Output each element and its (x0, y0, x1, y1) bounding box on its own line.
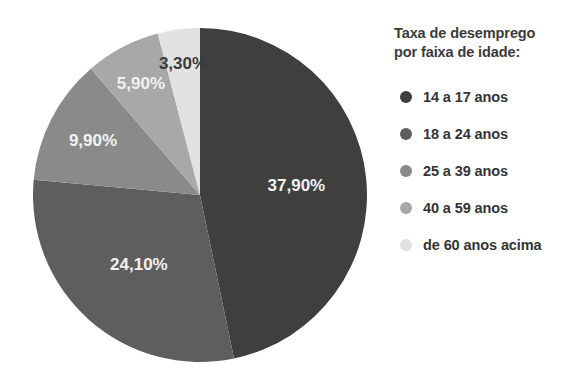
legend: Taxa de desemprego por faixa de idade: 1… (394, 24, 574, 264)
pie-chart-figure: 37,90%24,10%9,90%5,90%3,30% Taxa de dese… (0, 0, 577, 390)
legend-item[interactable]: de 60 anos acima (394, 227, 574, 264)
legend-items: 14 a 17 anos18 a 24 anos25 a 39 anos40 a… (394, 79, 574, 264)
legend-swatch-icon (400, 202, 412, 214)
legend-item[interactable]: 18 a 24 anos (394, 116, 574, 153)
legend-item-label: 14 a 17 anos (423, 89, 508, 105)
legend-item-label: de 60 anos acima (423, 237, 542, 253)
legend-swatch-icon (400, 128, 412, 140)
pie-slice-label: 9,90% (69, 131, 117, 150)
legend-item-label: 25 a 39 anos (423, 163, 508, 179)
legend-item-label: 40 a 59 anos (423, 200, 508, 216)
pie-slice-label: 3,30% (159, 54, 207, 73)
pie-chart-svg: 37,90%24,10%9,90%5,90%3,30% (33, 12, 367, 378)
legend-item-label: 18 a 24 anos (423, 126, 508, 142)
pie-slice-label: 24,10% (110, 255, 168, 274)
legend-title: Taxa de desemprego por faixa de idade: (394, 24, 574, 63)
legend-item[interactable]: 14 a 17 anos (394, 79, 574, 116)
legend-item[interactable]: 40 a 59 anos (394, 190, 574, 227)
pie-chart-area: 37,90%24,10%9,90%5,90%3,30% (33, 12, 367, 378)
legend-swatch-icon (400, 165, 412, 177)
pie-slice-label: 5,90% (117, 74, 165, 93)
legend-swatch-icon (400, 91, 412, 103)
legend-item[interactable]: 25 a 39 anos (394, 153, 574, 190)
pie-slice-label: 37,90% (268, 176, 326, 195)
legend-swatch-icon (400, 239, 412, 251)
